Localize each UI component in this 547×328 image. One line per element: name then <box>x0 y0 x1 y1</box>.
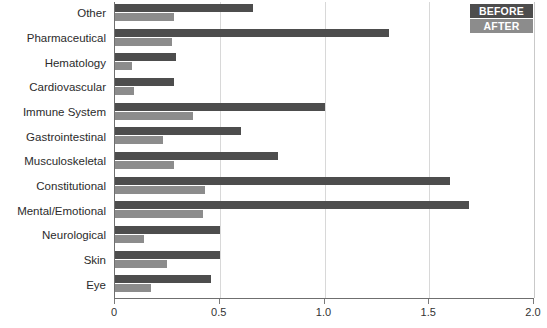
y-axis-label: Other <box>0 9 106 21</box>
bar-after <box>115 161 174 169</box>
bar-after <box>115 284 151 292</box>
x-axis-tick <box>533 299 534 304</box>
x-axis-tick-label: 2.0 <box>525 306 540 318</box>
x-axis-tick <box>428 299 429 304</box>
bar-before <box>115 4 253 12</box>
bar-group <box>115 273 534 298</box>
bar-after <box>115 87 134 95</box>
x-axis-tick-label: 0.5 <box>211 306 226 318</box>
bar-group <box>115 125 534 150</box>
y-axis-label: Pharmaceutical <box>0 33 106 45</box>
bar-before <box>115 226 220 234</box>
y-axis-label: Skin <box>0 255 106 267</box>
x-axis-tick-label: 1.0 <box>316 306 331 318</box>
bar-after <box>115 235 144 243</box>
legend-item-after[interactable]: AFTER <box>470 19 533 33</box>
bar-group <box>115 51 534 76</box>
bar-group <box>115 76 534 101</box>
x-axis: 00.51.01.52.0 <box>114 299 533 325</box>
bar-before <box>115 53 176 61</box>
bar-before <box>115 152 278 160</box>
bar-after <box>115 13 174 21</box>
x-axis-tick <box>324 299 325 304</box>
bar-before <box>115 103 325 111</box>
bar-before <box>115 177 450 185</box>
gridline <box>534 2 535 298</box>
legend-item-before[interactable]: BEFORE <box>470 4 533 18</box>
bar-before <box>115 201 469 209</box>
chart-legend: BEFOREAFTER <box>470 4 533 33</box>
y-axis-label: Constitutional <box>0 181 106 193</box>
bar-before <box>115 251 220 259</box>
bar-after <box>115 260 167 268</box>
y-axis-label: Immune System <box>0 107 106 119</box>
y-axis-label: Gastrointestinal <box>0 132 106 144</box>
bar-after <box>115 136 163 144</box>
y-axis-label: Eye <box>0 280 106 292</box>
bar-group <box>115 101 534 126</box>
x-axis-tick-label: 1.5 <box>421 306 436 318</box>
bar-before <box>115 78 174 86</box>
y-axis-labels: OtherPharmaceuticalHematologyCardiovascu… <box>0 2 106 298</box>
bar-after <box>115 112 193 120</box>
bar-before <box>115 127 241 135</box>
x-axis-tick <box>219 299 220 304</box>
bar-after <box>115 186 205 194</box>
plot-area <box>114 2 534 299</box>
bar-group <box>115 224 534 249</box>
x-axis-tick-label: 0 <box>111 306 117 318</box>
bar-after <box>115 62 132 70</box>
y-axis-label: Cardiovascular <box>0 83 106 95</box>
bar-after <box>115 38 172 46</box>
bar-chart: OtherPharmaceuticalHematologyCardiovascu… <box>0 0 547 328</box>
bar-group <box>115 150 534 175</box>
bar-after <box>115 210 203 218</box>
bar-before <box>115 275 211 283</box>
bar-group <box>115 249 534 274</box>
y-axis-label: Musculoskeletal <box>0 157 106 169</box>
y-axis-label: Neurological <box>0 231 106 243</box>
y-axis-label: Hematology <box>0 58 106 70</box>
y-axis-label: Mental/Emotional <box>0 206 106 218</box>
x-axis-tick <box>114 299 115 304</box>
bar-group <box>115 199 534 224</box>
bar-before <box>115 29 389 37</box>
bar-group <box>115 175 534 200</box>
